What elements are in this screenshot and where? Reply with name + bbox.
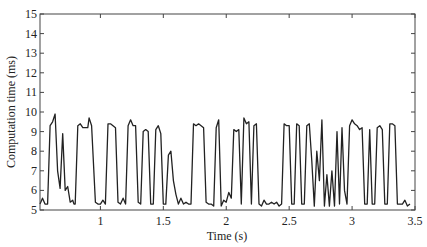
computation-time-line [40, 114, 410, 206]
y-tick-label: 14 [25, 27, 37, 41]
plot-frame [40, 14, 415, 210]
line-chart: 11.522.533.556789101112131415 Time (s) C… [0, 0, 427, 247]
y-tick-label: 13 [25, 46, 37, 60]
axis-ticks [40, 14, 415, 210]
y-tick-label: 8 [31, 144, 37, 158]
x-tick-label: 1.5 [156, 214, 171, 228]
x-tick-label: 2 [223, 214, 229, 228]
y-axis-label: Computation time (ms) [4, 56, 18, 168]
y-tick-label: 12 [25, 66, 37, 80]
y-tick-label: 5 [31, 203, 37, 217]
x-axis-label: Time (s) [207, 229, 248, 243]
x-tick-label: 1 [97, 214, 103, 228]
y-tick-label: 7 [31, 164, 37, 178]
x-tick-label: 2.5 [282, 214, 297, 228]
x-tick-label: 3 [349, 214, 355, 228]
y-tick-label: 11 [25, 85, 37, 99]
y-tick-label: 9 [31, 125, 37, 139]
tick-labels: 11.522.533.556789101112131415 [25, 7, 423, 228]
y-tick-label: 6 [31, 183, 37, 197]
x-tick-label: 3.5 [408, 214, 423, 228]
y-tick-label: 10 [25, 105, 37, 119]
y-tick-label: 15 [25, 7, 37, 21]
